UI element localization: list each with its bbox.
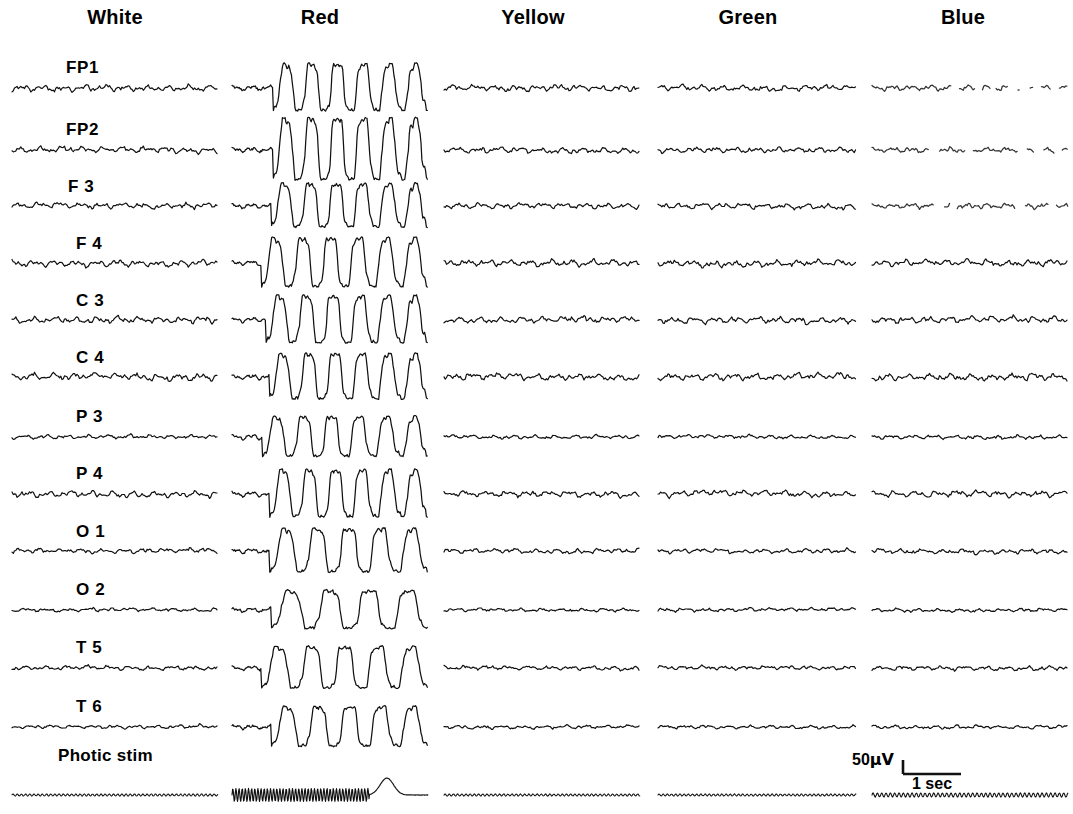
column-header-yellow: Yellow <box>501 6 564 29</box>
channel-label-c4: C 4 <box>76 348 104 368</box>
column-header-red: Red <box>301 6 339 29</box>
channel-label-c3: C 3 <box>76 291 104 311</box>
channel-label-f4: F 4 <box>76 234 102 254</box>
channel-label-t5: T 5 <box>76 638 102 658</box>
scale-amplitude-unit: μV <box>870 750 894 769</box>
scale-amplitude-label: 50μV <box>852 750 894 769</box>
column-header-green: Green <box>719 6 778 29</box>
photic-stim-label: Photic stim <box>58 746 153 766</box>
scale-amplitude-value: 50 <box>852 751 870 768</box>
scale-bar-marks <box>903 760 961 774</box>
channel-label-t6: T 6 <box>76 697 102 717</box>
channel-label-fp1: FP1 <box>66 58 99 78</box>
channel-label-o1: O 1 <box>76 522 105 542</box>
eeg-traces <box>0 0 1073 814</box>
channel-label-f3: F 3 <box>68 177 94 197</box>
channel-label-p3: P 3 <box>76 407 103 427</box>
column-header-blue: Blue <box>941 6 985 29</box>
channel-label-p4: P 4 <box>76 464 103 484</box>
column-header-white: White <box>87 6 142 29</box>
scale-time-label: 1 sec <box>912 775 952 793</box>
eeg-figure: White Red Yellow Green Blue FP1 FP2 F 3 … <box>0 0 1073 814</box>
channel-label-fp2: FP2 <box>66 120 99 140</box>
channel-label-o2: O 2 <box>76 580 105 600</box>
